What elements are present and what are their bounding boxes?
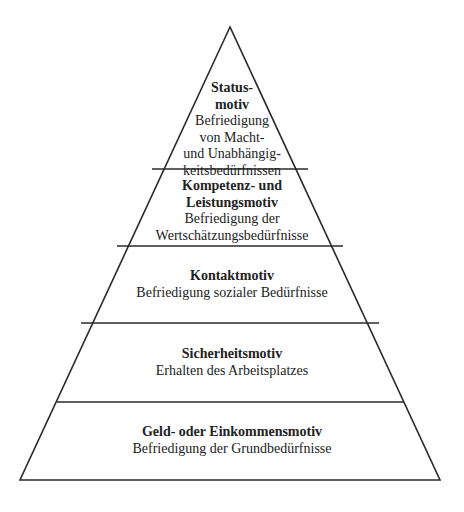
level-kompetenz-title-1: Kompetenz- und xyxy=(0,178,464,195)
level-kompetenz-title-2: Leistungsmotiv xyxy=(0,195,464,212)
level-kompetenz-desc-1: Befriedigung der xyxy=(0,211,464,228)
level-geld-title: Geld- oder Einkommensmotiv xyxy=(0,424,464,441)
level-status-title-1: Status- xyxy=(0,80,464,97)
level-status-desc-4: keitsbedürfnissen xyxy=(0,163,464,180)
level-sicherheit: Sicherheitsmotiv Erhalten des Arbeitspla… xyxy=(0,346,464,379)
level-status-desc-1: Befriedigung xyxy=(0,113,464,130)
level-kontakt-desc: Befriedigung sozialer Bedürfnisse xyxy=(0,285,464,302)
level-status-desc-2: von Macht- xyxy=(0,130,464,147)
level-kontakt: Kontaktmotiv Befriedigung sozialer Bedür… xyxy=(0,268,464,301)
level-kompetenz-desc-2: Wertschätzungsbedürfnisse xyxy=(0,228,464,245)
level-sicherheit-desc: Erhalten des Arbeitsplatzes xyxy=(0,363,464,380)
level-sicherheit-title: Sicherheitsmotiv xyxy=(0,346,464,363)
level-status-desc-3: und Unabhängig- xyxy=(0,146,464,163)
level-status-title-2: motiv xyxy=(0,97,464,114)
level-geld-desc: Befriedigung der Grundbedürfnisse xyxy=(0,441,464,458)
level-kontakt-title: Kontaktmotiv xyxy=(0,268,464,285)
level-geld: Geld- oder Einkommensmotiv Befriedigung … xyxy=(0,424,464,457)
level-status: Status- motiv Befriedigung von Macht- un… xyxy=(0,80,464,179)
level-kompetenz: Kompetenz- und Leistungsmotiv Befriedigu… xyxy=(0,178,464,244)
